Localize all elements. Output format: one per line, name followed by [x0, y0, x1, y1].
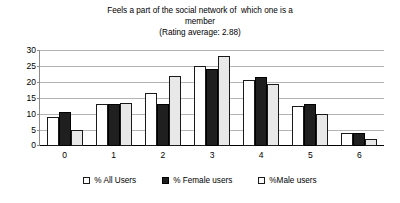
bar	[194, 66, 206, 146]
bar	[353, 133, 365, 146]
bar	[169, 76, 181, 146]
legend-item: % Female users	[162, 176, 232, 185]
x-axis-tick-label: 6	[335, 150, 384, 160]
legend-label: % All Users	[94, 176, 136, 185]
bar	[206, 69, 218, 146]
legend-swatch-icon	[162, 177, 169, 184]
legend-label: % Female users	[173, 176, 232, 185]
y-axis-tick-label: 10	[27, 110, 36, 119]
x-axis-labels: 0123456	[40, 150, 384, 160]
x-axis-tick-label: 1	[89, 150, 138, 160]
bar	[96, 104, 108, 146]
bar	[218, 56, 230, 146]
bar	[59, 112, 71, 146]
bar	[316, 114, 328, 146]
bar	[267, 84, 279, 146]
bar-group	[138, 50, 187, 146]
legend-item: %Male users	[258, 176, 316, 185]
bar-chart: Feels a part of the social network of wh…	[0, 0, 400, 203]
chart-title-line-3: (Rating average: 2.88)	[0, 27, 400, 38]
bar	[145, 93, 157, 146]
bar	[108, 104, 120, 146]
plot-area: 051015202530	[40, 50, 384, 146]
y-axis-tick-label: 25	[27, 62, 36, 71]
legend-swatch-icon	[258, 177, 265, 184]
x-axis-tick-label: 4	[237, 150, 286, 160]
x-axis-tick-label: 5	[286, 150, 335, 160]
bar-group	[286, 50, 335, 146]
bar-group	[89, 50, 138, 146]
y-axis-tick-label: 15	[27, 94, 36, 103]
bar-group	[335, 50, 384, 146]
chart-title: Feels a part of the social network of wh…	[0, 5, 400, 38]
bar	[47, 117, 59, 146]
chart-title-line-1: Feels a part of the social network of wh…	[0, 5, 400, 16]
x-axis-tick-label: 3	[187, 150, 236, 160]
y-axis-tick-label: 20	[27, 78, 36, 87]
bar	[304, 104, 316, 146]
bars-layer	[40, 50, 384, 146]
bar-group	[187, 50, 236, 146]
legend-item: % All Users	[83, 176, 136, 185]
bar	[292, 106, 304, 146]
bar	[120, 103, 132, 146]
bar	[71, 130, 83, 146]
chart-title-line-2: member	[0, 16, 400, 27]
legend-label: %Male users	[269, 176, 316, 185]
bar	[255, 77, 267, 146]
y-axis-tick-label: 5	[31, 126, 36, 135]
bar	[243, 80, 255, 146]
chart-legend: % All Users% Female users%Male users	[0, 176, 400, 185]
y-axis-tick-label: 0	[31, 141, 36, 150]
y-axis-tick-label: 30	[27, 46, 36, 55]
bar-group	[237, 50, 286, 146]
x-axis-tick-label: 2	[138, 150, 187, 160]
bar	[341, 133, 353, 146]
legend-swatch-icon	[83, 177, 90, 184]
bar	[157, 104, 169, 146]
x-axis-tick-label: 0	[40, 150, 89, 160]
bar-group	[40, 50, 89, 146]
bar	[365, 139, 377, 146]
